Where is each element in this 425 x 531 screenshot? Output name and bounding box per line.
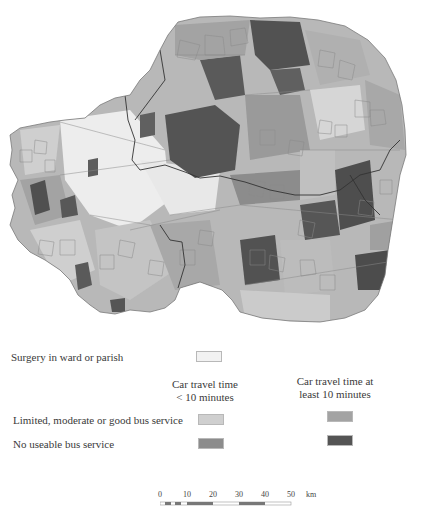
legend-surgery-label: Surgery in ward or parish (11, 351, 123, 363)
scale-unit: km (306, 490, 316, 499)
legend-no-bus-label: No useable bus service (13, 438, 114, 450)
scale-bar: 0 10 20 30 40 50 km (150, 490, 350, 520)
scale-tick-10: 10 (183, 490, 191, 499)
legend-col-head-lt10-line1: Car travel time (150, 378, 260, 391)
legend-col-head-ge10-line2: least 10 minutes (280, 388, 390, 401)
scale-tick-40: 40 (261, 490, 269, 499)
legend-swatch-ge10-nobus (327, 435, 353, 446)
legend-col-head-lt10: Car travel time < 10 minutes (150, 378, 260, 404)
legend-swatch-ge10-bus (327, 411, 353, 422)
legend-swatch-lt10-nobus (198, 438, 224, 449)
scale-tick-30: 30 (235, 490, 243, 499)
scale-bar-graphic (160, 501, 295, 507)
legend-swatch-lt10-bus (198, 414, 224, 425)
scale-tick-20: 20 (209, 490, 217, 499)
scale-tick-0: 0 (158, 490, 162, 499)
choropleth-map (0, 0, 425, 330)
legend-col-head-lt10-line2: < 10 minutes (150, 391, 260, 404)
legend-swatch-surgery (196, 351, 222, 362)
scale-tick-50: 50 (287, 490, 295, 499)
legend-bus-service-label: Limited, moderate or good bus service (13, 414, 183, 426)
legend-col-head-ge10-line1: Car travel time at (280, 375, 390, 388)
legend-col-head-ge10: Car travel time at least 10 minutes (280, 375, 390, 401)
